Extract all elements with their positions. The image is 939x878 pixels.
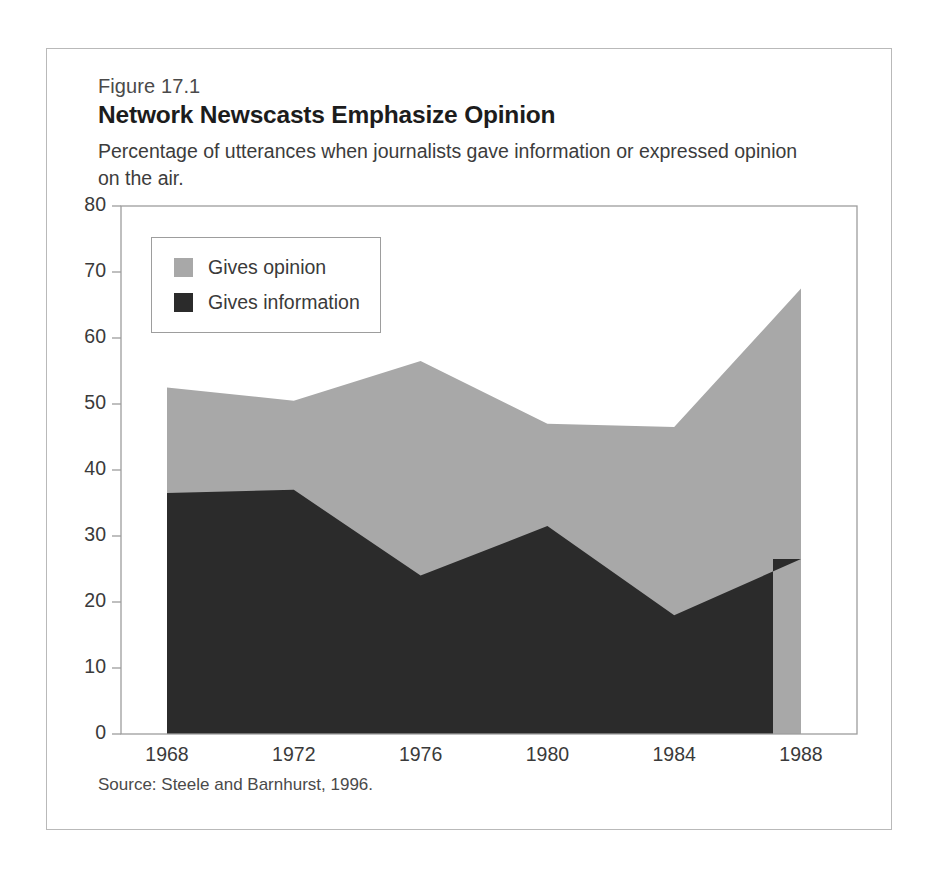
- x-axis-tick-label: 1968: [122, 743, 212, 766]
- legend-label-gives-information: Gives information: [208, 291, 360, 314]
- legend-swatch-opinion-icon: [174, 258, 193, 277]
- y-axis-tick-label: 50: [60, 391, 106, 414]
- legend-item-gives-information[interactable]: Gives information: [174, 285, 380, 320]
- x-axis-tick-label: 1976: [376, 743, 466, 766]
- x-axis-tick-label: 1988: [756, 743, 846, 766]
- x-axis-tick-label: 1984: [629, 743, 719, 766]
- y-axis-tick-label: 40: [60, 457, 106, 480]
- y-axis-tick-label: 20: [60, 589, 106, 612]
- stacked-area-chart: [47, 49, 893, 831]
- figure-panel: Figure 17.1 Network Newscasts Emphasize …: [46, 48, 892, 830]
- y-axis-tick-label: 30: [60, 523, 106, 546]
- y-axis-tick-label: 10: [60, 655, 106, 678]
- y-axis-tick-label: 0: [60, 721, 106, 744]
- y-axis-tick-label: 70: [60, 259, 106, 282]
- chart-plot-area: 8070605040302010019681972197619801984198…: [47, 49, 893, 831]
- chart-legend: Gives opinion Gives information: [151, 237, 381, 333]
- legend-item-gives-opinion[interactable]: Gives opinion: [174, 250, 380, 285]
- x-axis-tick-label: 1980: [502, 743, 592, 766]
- x-axis-tick-label: 1972: [249, 743, 339, 766]
- y-axis-tick-label: 60: [60, 325, 106, 348]
- legend-swatch-information-icon: [174, 293, 193, 312]
- source-note: Source: Steele and Barnhurst, 1996.: [98, 775, 373, 795]
- legend-label-gives-opinion: Gives opinion: [208, 256, 326, 279]
- y-axis-tick-label: 80: [60, 193, 106, 216]
